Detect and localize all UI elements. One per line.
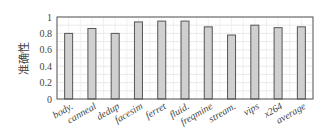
x-tick-label: ferret — [143, 100, 168, 121]
bar — [251, 25, 259, 99]
y-tick-label: 1 — [47, 12, 52, 23]
x-tick-label: vips — [241, 100, 261, 118]
bar — [297, 27, 305, 99]
bar — [88, 28, 96, 99]
x-axis-labels: body.cannealdedupfacesimferretfluid.freq… — [51, 100, 308, 127]
y-tick-label: 0 — [47, 94, 52, 105]
bar — [228, 35, 236, 99]
bars — [65, 21, 306, 99]
y-tick-label: 0.2 — [40, 77, 53, 88]
bar — [204, 27, 212, 99]
y-axis-label: 准确性 — [17, 42, 30, 75]
bar — [134, 22, 142, 99]
bar-chart: 00.20.40.60.81 body.cannealdedupfacesimf… — [0, 0, 327, 137]
bar — [181, 21, 189, 99]
bar — [111, 33, 119, 99]
bar — [274, 28, 282, 99]
y-tick-label: 0.8 — [40, 28, 53, 39]
bar — [65, 33, 73, 99]
y-tick-label: 0.4 — [40, 61, 53, 72]
y-axis-ticks: 00.20.40.60.81 — [40, 12, 53, 105]
y-tick-label: 0.6 — [40, 44, 53, 55]
bar — [158, 21, 166, 99]
x-tick-label: stream. — [207, 100, 238, 124]
